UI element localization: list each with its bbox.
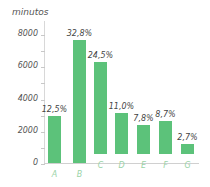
percent-label: 32,8% [65, 29, 95, 38]
y-tick [41, 35, 45, 36]
bar-a [48, 116, 61, 163]
bar-b [73, 40, 86, 163]
y-tick-label: 8000 [2, 29, 38, 38]
y-tick-label: 4000 [2, 94, 38, 103]
category-label: G [181, 161, 195, 170]
y-axis-line [44, 21, 45, 164]
bar-d [115, 113, 128, 154]
y-tick [41, 100, 45, 101]
y-tick [41, 67, 45, 68]
category-label: F [159, 161, 173, 170]
y-tick [41, 83, 45, 84]
bar-e [137, 125, 150, 154]
y-tick-label: 2000 [2, 126, 38, 135]
y-tick [41, 51, 45, 52]
category-label: A [48, 170, 62, 179]
percent-label: 8,7% [151, 110, 181, 119]
y-tick [41, 132, 45, 133]
category-label: C [94, 161, 108, 170]
category-label: E [137, 161, 151, 170]
y-tick [41, 164, 45, 165]
bar-g [181, 144, 194, 154]
y-tick [41, 148, 45, 149]
y-tick-label: 6000 [2, 61, 38, 70]
y-tick-label: 0 [2, 158, 38, 167]
y-tick [41, 116, 45, 117]
percent-label: 2,7% [173, 133, 203, 142]
bar-f [159, 121, 172, 154]
y-axis-label: minutos [12, 7, 48, 17]
category-label: B [73, 170, 87, 179]
bar-c [94, 62, 107, 154]
category-label: D [115, 161, 129, 170]
percent-label: 11,0% [107, 102, 137, 111]
percent-label: 12,5% [40, 105, 70, 114]
percent-label: 24,5% [86, 51, 116, 60]
